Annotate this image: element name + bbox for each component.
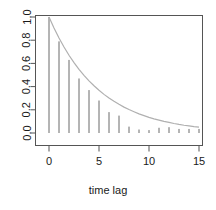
- y-tick-label: 0.0: [21, 125, 33, 140]
- y-tick-label: 0.8: [21, 33, 33, 48]
- x-axis-title: time lag: [89, 184, 128, 196]
- y-tick-label: 1.0: [21, 9, 33, 24]
- x-tick-label: 5: [96, 155, 102, 167]
- acf-plot-figure: 0.00.20.40.60.81.0 051015 time lag: [0, 0, 216, 210]
- y-tick-label: 0.2: [21, 102, 33, 117]
- x-tick-label: 10: [143, 155, 155, 167]
- x-tick-label: 0: [46, 155, 52, 167]
- y-tick-label: 0.4: [21, 79, 33, 94]
- x-tick-label: 15: [193, 155, 205, 167]
- y-tick-label: 0.6: [21, 56, 33, 71]
- chart-canvas: 0.00.20.40.60.81.0 051015 time lag: [0, 0, 216, 210]
